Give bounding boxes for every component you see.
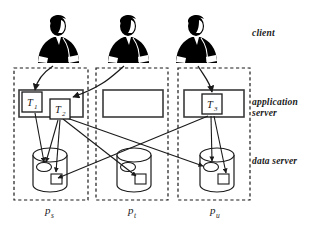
link-client3-T3 bbox=[198, 66, 212, 92]
process-label-p-t: p t bbox=[127, 204, 137, 220]
tier-label-client: client bbox=[252, 28, 275, 39]
data-store-p-t bbox=[117, 148, 151, 192]
transaction-T2-subscript: 2 bbox=[62, 110, 66, 118]
data-store-ps-ellipse bbox=[37, 163, 52, 172]
client-figure-1 bbox=[38, 15, 79, 63]
client-figure-2 bbox=[108, 15, 149, 63]
data-store-pu-ellipse bbox=[204, 163, 219, 172]
link-T2-pt-square bbox=[63, 119, 136, 176]
transaction-T3-subscript: 3 bbox=[213, 105, 218, 113]
client-figure-3 bbox=[176, 15, 217, 63]
svg-text:t: t bbox=[134, 211, 137, 220]
transaction-T1-subscript: 1 bbox=[34, 103, 38, 111]
svg-text:p: p bbox=[209, 204, 216, 216]
svg-text:p: p bbox=[127, 204, 134, 216]
process-label-p-u: p u bbox=[209, 204, 220, 220]
transaction-T1[interactable]: T 1 bbox=[22, 92, 42, 112]
tier-label-data-server: data server bbox=[252, 156, 297, 167]
data-store-pu-square bbox=[218, 174, 229, 184]
process-label-p-s: p s bbox=[44, 204, 54, 220]
diagram-canvas: T 1 T 2 T 3 p s p t p u clien bbox=[0, 0, 335, 236]
svg-text:p: p bbox=[44, 204, 51, 216]
data-store-p-s bbox=[33, 148, 67, 192]
tier-label-application-server: application server bbox=[252, 97, 298, 119]
link-client1-T1 bbox=[35, 66, 53, 90]
app-server-rect-p-t bbox=[103, 90, 163, 117]
transaction-T3[interactable]: T 3 bbox=[202, 94, 222, 114]
data-store-pt-square bbox=[135, 174, 146, 184]
svg-text:s: s bbox=[51, 211, 54, 220]
data-store-ps-square bbox=[51, 174, 62, 184]
data-store-p-u bbox=[200, 148, 234, 192]
svg-text:u: u bbox=[216, 211, 220, 220]
transaction-T2[interactable]: T 2 bbox=[50, 99, 70, 119]
